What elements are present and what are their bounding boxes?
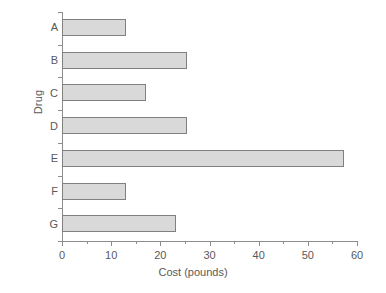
bar-c[interactable] xyxy=(62,84,146,101)
y-tick-mark xyxy=(58,12,62,13)
x-tick-label-0: 0 xyxy=(42,249,82,261)
y-tick-mark xyxy=(58,45,62,46)
y-tick-mark xyxy=(58,176,62,177)
x-tick-label-30: 30 xyxy=(190,249,230,261)
x-tick-mark xyxy=(259,241,260,246)
bar-d[interactable] xyxy=(62,117,187,134)
x-tick-mark xyxy=(357,241,358,246)
y-tick-label-b: B xyxy=(30,54,58,66)
x-tick-mark xyxy=(62,241,63,246)
x-tick-label-20: 20 xyxy=(140,249,180,261)
y-tick-mark xyxy=(58,110,62,111)
y-tick-mark xyxy=(58,208,62,209)
y-tick-label-c: C xyxy=(30,87,58,99)
bar-f[interactable] xyxy=(62,183,126,200)
y-tick-mark xyxy=(58,77,62,78)
x-minor-tick-mark xyxy=(283,241,284,244)
bar-g[interactable] xyxy=(62,215,176,232)
y-axis-tick-labels: ABCDEFG xyxy=(30,12,58,241)
bar-e[interactable] xyxy=(62,150,344,167)
y-tick-label-e: E xyxy=(30,152,58,164)
y-tick-label-f: F xyxy=(30,185,58,197)
plot-area: 0102030405060 xyxy=(62,12,357,241)
x-axis-title: Cost (pounds) xyxy=(0,266,386,278)
x-tick-label-40: 40 xyxy=(239,249,279,261)
bar-b[interactable] xyxy=(62,52,187,69)
x-tick-mark xyxy=(210,241,211,246)
x-tick-mark xyxy=(308,241,309,246)
x-tick-mark xyxy=(160,241,161,246)
x-tick-label-50: 50 xyxy=(288,249,328,261)
x-minor-tick-mark xyxy=(332,241,333,244)
x-minor-tick-mark xyxy=(234,241,235,244)
bar-chart: Drug ABCDEFG 0102030405060 Cost (pounds) xyxy=(0,0,386,293)
x-minor-tick-mark xyxy=(136,241,137,244)
bar-a[interactable] xyxy=(62,19,126,36)
y-tick-label-d: D xyxy=(30,120,58,132)
y-tick-label-g: G xyxy=(30,218,58,230)
x-minor-tick-mark xyxy=(185,241,186,244)
x-minor-tick-mark xyxy=(87,241,88,244)
x-tick-label-10: 10 xyxy=(91,249,131,261)
x-tick-label-60: 60 xyxy=(337,249,377,261)
x-tick-mark xyxy=(111,241,112,246)
y-tick-mark xyxy=(58,143,62,144)
y-tick-label-a: A xyxy=(30,21,58,33)
